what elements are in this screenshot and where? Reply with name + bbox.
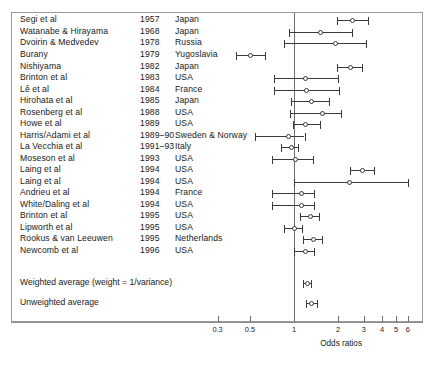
study-error-bar [0, 86, 434, 95]
x-axis-tick-label: 6 [406, 325, 410, 334]
ci-upper-cap [408, 179, 409, 187]
odds-ratio-marker [320, 111, 325, 116]
ci-upper-cap [314, 190, 315, 198]
study-error-bar [0, 212, 434, 221]
ci-lower-cap [274, 75, 275, 83]
confidence-interval-line [290, 113, 341, 114]
x-axis-tick-label: 4 [380, 325, 384, 334]
confidence-interval-line [272, 193, 314, 194]
odds-ratio-marker [286, 134, 291, 139]
odds-ratio-marker [292, 226, 297, 231]
study-error-bar [0, 132, 434, 141]
forest-plot-figure: Segi et al1957JapanWatanabe & Hirayama19… [0, 0, 434, 371]
ci-lower-cap [272, 190, 273, 198]
ci-lower-cap [303, 280, 304, 288]
study-error-bar [0, 16, 434, 25]
odds-ratio-marker [299, 203, 304, 208]
x-axis-tick [382, 316, 383, 322]
odds-ratio-marker [303, 76, 308, 81]
study-error-bar [0, 120, 434, 129]
study-error-bar [0, 39, 434, 48]
ci-upper-cap [313, 156, 314, 164]
odds-ratio-marker [248, 53, 253, 58]
odds-ratio-marker [333, 41, 338, 46]
x-axis-tick-label: 2 [336, 325, 340, 334]
ci-upper-cap [341, 110, 342, 118]
ci-upper-cap [314, 202, 315, 210]
odds-ratio-marker [305, 281, 310, 286]
x-axis-tick-label: 5 [394, 325, 398, 334]
odds-ratio-marker [293, 157, 298, 162]
x-axis-tick-label: 3 [362, 325, 366, 334]
ci-lower-cap [284, 40, 285, 48]
ci-lower-cap [294, 179, 295, 187]
ci-upper-cap [319, 213, 320, 221]
x-axis-line [11, 322, 423, 323]
study-error-bar [0, 201, 434, 210]
ci-lower-cap [272, 156, 273, 164]
ci-upper-cap [322, 236, 323, 244]
ci-upper-cap [329, 98, 330, 106]
ci-lower-cap [350, 167, 351, 175]
ci-lower-cap [294, 248, 295, 256]
ci-lower-cap [272, 202, 273, 210]
ci-upper-cap [366, 40, 367, 48]
odds-ratio-marker [309, 99, 314, 104]
confidence-interval-line [272, 205, 314, 206]
confidence-interval-line [255, 136, 305, 137]
ci-upper-cap [314, 248, 315, 256]
ci-upper-cap [339, 87, 340, 95]
odds-ratio-marker [308, 214, 313, 219]
summary-error-bar [0, 299, 434, 308]
confidence-interval-line [284, 43, 367, 44]
x-axis-tick [408, 316, 409, 322]
ci-upper-cap [338, 75, 339, 83]
study-error-bar [0, 63, 434, 72]
study-error-bar [0, 74, 434, 83]
odds-ratio-marker [303, 249, 308, 254]
odds-ratio-marker [289, 145, 294, 150]
ci-lower-cap [293, 121, 294, 129]
odds-ratio-marker [347, 180, 352, 185]
ci-upper-cap [368, 17, 369, 25]
ci-lower-cap [303, 236, 304, 244]
odds-ratio-marker [360, 168, 365, 173]
ci-lower-cap [306, 300, 307, 308]
ci-upper-cap [320, 121, 321, 129]
odds-ratio-marker [350, 18, 355, 23]
ci-lower-cap [337, 64, 338, 72]
odds-ratio-marker [299, 191, 304, 196]
ci-lower-cap [281, 144, 282, 152]
ci-upper-cap [352, 29, 353, 37]
study-error-bar [0, 28, 434, 37]
ci-upper-cap [311, 280, 312, 288]
odds-ratio-marker [348, 65, 353, 70]
odds-ratio-marker [304, 88, 309, 93]
ci-upper-cap [374, 167, 375, 175]
x-axis-tick-label: 1 [292, 325, 296, 334]
x-axis-tick-label: 0.3 [212, 325, 222, 334]
x-axis-tick [294, 316, 295, 322]
ci-lower-cap [284, 225, 285, 233]
ci-upper-cap [298, 144, 299, 152]
x-axis-title: Odds ratios [320, 339, 362, 349]
ci-lower-cap [255, 133, 256, 141]
odds-ratio-marker [303, 122, 308, 127]
x-axis-tick [250, 316, 251, 322]
ci-upper-cap [362, 64, 363, 72]
study-error-bar [0, 51, 434, 60]
odds-ratio-marker [311, 237, 316, 242]
ci-upper-cap [265, 52, 266, 60]
ci-lower-cap [274, 87, 275, 95]
study-error-bar [0, 178, 434, 187]
ci-lower-cap [300, 213, 301, 221]
study-error-bar [0, 97, 434, 106]
study-error-bar [0, 109, 434, 118]
ci-lower-cap [289, 29, 290, 37]
x-axis-tick-label: 0.5 [245, 325, 255, 334]
odds-ratio-marker [318, 30, 323, 35]
study-error-bar [0, 143, 434, 152]
ci-lower-cap [236, 52, 237, 60]
x-axis-tick [218, 316, 219, 322]
ci-upper-cap [317, 300, 318, 308]
